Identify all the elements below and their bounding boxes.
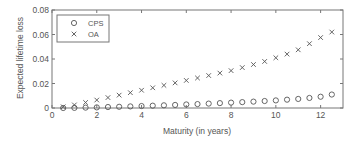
x-tick-label: 4 bbox=[139, 110, 144, 120]
legend-label: OA bbox=[88, 30, 99, 39]
y-tick-label: 0.04 bbox=[32, 54, 49, 64]
chart: 02468101200.020.040.060.08 CPSOA Maturit… bbox=[0, 0, 362, 141]
x-tick-label: 8 bbox=[229, 110, 234, 120]
y-tick-label: 0.02 bbox=[32, 79, 49, 89]
x-tick-label: 10 bbox=[271, 110, 281, 120]
x-tick-label: 0 bbox=[50, 110, 55, 120]
y-axis-label: Expected lifetime loss bbox=[15, 17, 25, 99]
x-tick-label: 6 bbox=[184, 110, 189, 120]
legend-label: CPS bbox=[88, 19, 103, 28]
legend: CPSOA bbox=[57, 15, 109, 42]
y-tick-label: 0.06 bbox=[32, 30, 49, 40]
x-tick-label: 12 bbox=[316, 110, 326, 120]
y-tick-label: 0.08 bbox=[32, 5, 49, 15]
x-axis-label: Maturity (in years) bbox=[163, 126, 231, 136]
x-tick-label: 2 bbox=[94, 110, 99, 120]
y-tick-label: 0 bbox=[44, 103, 49, 113]
